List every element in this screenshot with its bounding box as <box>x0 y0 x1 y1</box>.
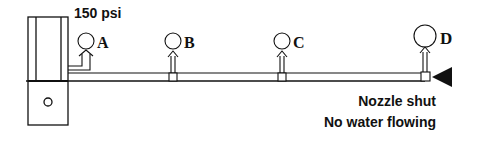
gauge-c-label: C <box>293 34 305 51</box>
caption-line-2: No water flowing <box>324 114 436 130</box>
pump <box>28 17 68 125</box>
gauge-b-dial-icon <box>165 33 181 49</box>
pump-body <box>28 17 68 125</box>
gauge-d-dial-icon <box>414 25 436 47</box>
pump-base-hole-icon <box>44 98 52 106</box>
gauge-b-label: B <box>184 34 195 51</box>
gauge-c <box>274 33 290 81</box>
gauge-a <box>68 33 94 70</box>
caption-line-1: Nozzle shut <box>358 93 436 109</box>
gauge-c-dial-icon <box>274 33 290 49</box>
gauge-b <box>165 33 181 81</box>
gauge-d-label: D <box>440 29 452 48</box>
nozzle-icon <box>432 67 452 87</box>
gauge-a-label: A <box>97 34 109 51</box>
hose-line <box>26 73 425 81</box>
pressure-label: 150 psi <box>74 5 121 21</box>
pressure-diagram: A 150 psi B C D Nozzle shut No water flo… <box>0 0 478 142</box>
gauge-a-dial-icon <box>78 33 94 49</box>
